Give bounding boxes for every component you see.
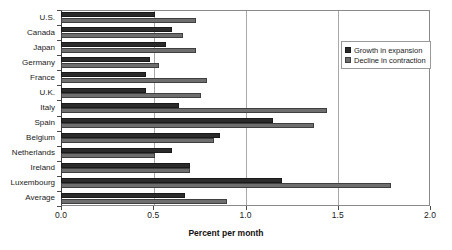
bar-growth [61,57,150,62]
legend-swatch-growth-icon [345,47,351,53]
y-axis-tick [57,10,61,11]
bar-decline [61,123,314,128]
bar-decline [61,108,327,113]
y-axis-label: Average [0,193,55,203]
bar-group [61,131,430,146]
bar-group [61,191,430,206]
bar-chart: U.S.CanadaJapanGermanyFranceU.K.ItalySpa… [0,0,452,250]
legend-item-decline: Decline in contraction [345,55,426,65]
bar-group [61,116,430,131]
bar-group [61,100,430,115]
bar-decline [61,63,159,68]
y-axis-tick [57,161,61,162]
y-axis-tick [57,25,61,26]
chart-legend: Growth in expansion Decline in contracti… [341,41,431,69]
x-axis-tick-label: 0.0 [41,210,81,220]
bar-group [61,25,430,40]
bar-growth [61,88,146,93]
y-axis-label: Belgium [0,133,55,143]
legend-swatch-decline-icon [345,57,351,63]
bar-growth [61,133,220,138]
y-axis-label: Ireland [0,163,55,173]
bar-decline [61,33,183,38]
bar-decline [61,199,227,204]
bar-group [61,10,430,25]
y-axis-tick [57,206,61,207]
bar-decline [61,48,196,53]
bar-decline [61,138,214,143]
y-axis-label: U.S. [0,13,55,23]
x-axis-tick-label: 0.5 [133,210,173,220]
bar-decline [61,153,155,158]
bar-group [61,146,430,161]
y-axis-label: Spain [0,118,55,128]
bar-group [61,85,430,100]
x-axis-tick-label: 2.0 [410,210,450,220]
bar-decline [61,18,196,23]
bar-decline [61,93,201,98]
bar-growth [61,42,166,47]
y-axis-tick [57,146,61,147]
x-axis-tick-label: 1.5 [318,210,358,220]
bar-growth [61,193,185,198]
y-axis-label: U.K. [0,88,55,98]
bar-decline [61,168,190,173]
y-axis-labels: U.S.CanadaJapanGermanyFranceU.K.ItalySpa… [0,10,57,206]
bar-growth [61,148,172,153]
y-axis-tick [57,40,61,41]
bar-growth [61,72,146,77]
y-axis-tick [57,131,61,132]
bar-growth [61,27,172,32]
y-axis-label: Luxembourg [0,178,55,188]
bar-growth [61,118,273,123]
bar-decline [61,78,207,83]
y-axis-label: Japan [0,43,55,53]
y-axis-label: Canada [0,28,55,38]
bar-group [61,176,430,191]
y-axis-label: Italy [0,103,55,113]
y-axis-tick [57,85,61,86]
legend-label-decline: Decline in contraction [354,56,426,65]
x-axis-tick-label: 1.0 [226,210,266,220]
bar-growth [61,12,155,17]
bars-container [61,10,430,206]
bar-growth [61,103,179,108]
y-axis-tick [57,176,61,177]
bar-decline [61,183,391,188]
y-axis-label: Netherlands [0,148,55,158]
legend-item-growth: Growth in expansion [345,45,426,55]
bar-group [61,161,430,176]
bar-growth [61,163,190,168]
y-axis-tick [57,70,61,71]
bar-group [61,70,430,85]
y-axis-tick [57,116,61,117]
x-axis-title: Percent per month [0,228,452,238]
bar-growth [61,178,282,183]
y-axis-tick [57,191,61,192]
y-axis-tick [57,55,61,56]
y-axis-label: Germany [0,58,55,68]
legend-label-growth: Growth in expansion [354,46,422,55]
y-axis-tick [57,100,61,101]
y-axis-label: France [0,73,55,83]
